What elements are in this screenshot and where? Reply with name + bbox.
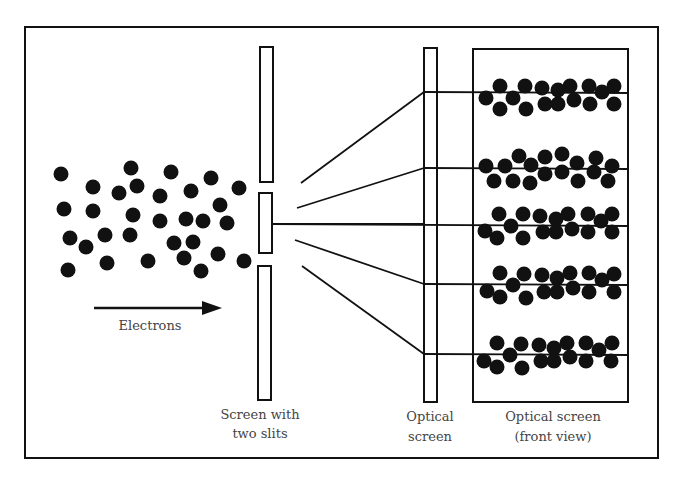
- slit-screen-label-line2: two slits: [232, 426, 287, 441]
- front-view-label-line2: (front view): [514, 429, 591, 444]
- interference-rays: [272, 92, 424, 354]
- electrons-label: Electrons: [119, 318, 182, 333]
- hit-band-2: [479, 147, 620, 191]
- slit-screen-label-line1: Screen with: [220, 407, 300, 422]
- direction-arrow-icon: [94, 301, 222, 315]
- front-view-label-line1: Optical screen: [505, 409, 601, 424]
- optical-screen-label-line2: screen: [408, 429, 453, 444]
- double-slit-diagram: Electrons Screen with two slits Optical …: [0, 0, 693, 479]
- hit-band-1: [479, 79, 622, 117]
- slit-screen: [258, 47, 273, 400]
- electron-cloud: [54, 161, 252, 279]
- optical-screen-label-line1: Optical: [406, 409, 454, 424]
